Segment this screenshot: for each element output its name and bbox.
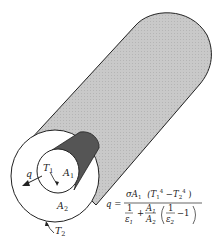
- svg-text:A1: A1: [145, 203, 156, 214]
- svg-text:A2: A2: [145, 214, 156, 225]
- heat-flow-label: q: [26, 168, 32, 179]
- svg-text:1: 1: [168, 203, 173, 213]
- equation-lhs: q =: [106, 199, 121, 209]
- svg-text:ε1: ε1: [125, 214, 133, 225]
- svg-text:−1: −1: [177, 208, 190, 218]
- svg-text:+: +: [137, 208, 144, 218]
- radiation-equation: q = σA1 (T14 −T24 ) 1 ε1 + A1 A2 1 ε2 −1: [106, 185, 202, 225]
- svg-text:1: 1: [127, 203, 132, 213]
- equation-numerator: σA1 (T14 −T24 ): [126, 185, 192, 201]
- outer-temp-label: T2: [55, 225, 65, 238]
- svg-text:ε2: ε2: [166, 214, 175, 225]
- concentric-cylinders-diagram: q T1 A1 A2 T2 q = σA1 (T14 −T24 ) 1 ε1 +…: [0, 0, 218, 240]
